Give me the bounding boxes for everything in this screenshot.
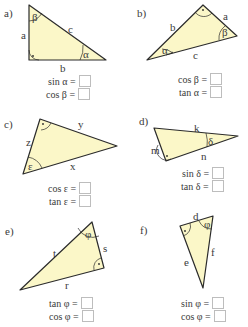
exercise-label-b: b) [137,8,146,19]
side-label: k [194,123,200,134]
equation-row: cos ε = [48,182,91,194]
side-label: a [223,11,228,22]
equation-row: sin δ = [182,167,224,179]
triangle-e [20,222,104,290]
answer-box[interactable] [212,297,224,309]
equation-row: cos β = [46,88,90,100]
equation-row: tan ε = [49,195,91,207]
angle-label: φ [204,219,210,230]
equation-row: tan δ = [181,180,224,192]
answer-box[interactable] [81,297,93,309]
exercise-label-f: f) [140,225,147,236]
side-label: z [26,137,31,148]
answer-box[interactable] [210,86,222,98]
side-label: n [201,151,207,162]
exercise-label-a: a) [4,8,13,19]
exercise-label-d: d) [139,116,148,127]
side-label: t [53,248,56,259]
equation-row: cos φ = [181,310,226,322]
angle-label: φ [85,229,91,240]
side-label: c [68,24,73,35]
equation-row: sin φ = [181,297,224,309]
side-label: e [184,257,189,268]
answer-box[interactable] [82,310,94,322]
side-label: r [65,280,69,291]
side-label: y [78,119,84,130]
answer-box[interactable] [212,180,224,192]
answer-box[interactable] [214,310,226,322]
side-label: m [151,145,160,156]
side-label: c [193,50,198,61]
answer-box[interactable] [79,75,91,87]
answer-box[interactable] [79,182,91,194]
side-label: s [103,243,107,254]
side-label: x [70,161,76,172]
equation-row: cos β = [178,73,222,85]
answer-box[interactable] [212,167,224,179]
equation-row: tan α = [179,86,222,98]
answer-box[interactable] [78,88,90,100]
answer-box[interactable] [79,195,91,207]
angle-label: α [162,45,168,56]
exercise-label-c: c) [4,119,13,130]
angle-label: α [83,49,89,60]
answer-box[interactable] [210,73,222,85]
exercise-label-e: e) [5,226,14,237]
angle-label: δ [208,136,213,147]
side-label: a [21,30,26,41]
angle-label: β [32,12,38,23]
equation-row: sin α = [48,75,91,87]
triangle-figures [0,0,248,327]
side-label: b [60,63,66,74]
side-label: b [170,22,176,33]
angle-label: ε [28,161,33,172]
side-label: d [193,211,199,222]
angle-label: β [222,27,228,38]
side-label: f [211,247,215,258]
equation-row: cos φ = [49,310,94,322]
equation-row: tan φ = [49,297,93,309]
